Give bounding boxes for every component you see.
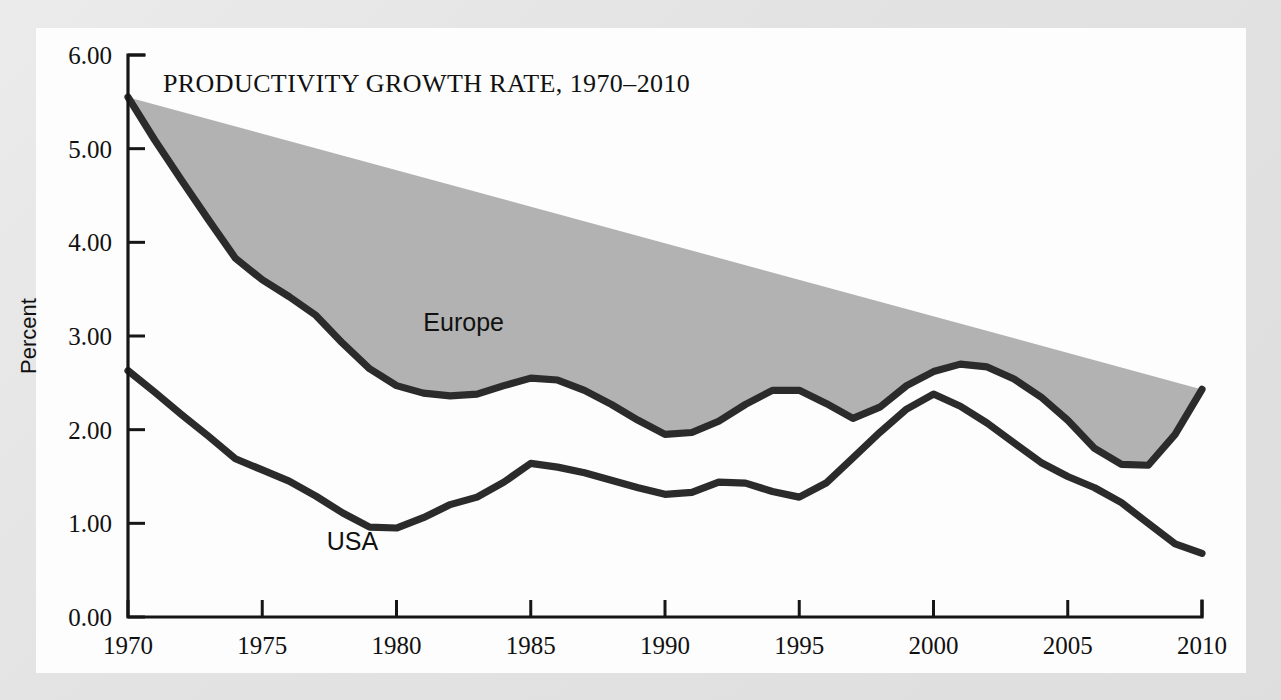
x-axis-tick-label: 2000 — [909, 632, 959, 659]
x-axis-tick-label: 1990 — [640, 632, 690, 659]
y-axis-title: Percent — [16, 298, 41, 374]
y-axis-ticks — [128, 55, 145, 617]
y-axis-tick-label: 0.00 — [68, 604, 112, 631]
y-axis-tick-label: 5.00 — [68, 136, 112, 163]
figure-page: 0.001.002.003.004.005.006.00 19701975198… — [0, 0, 1281, 700]
between-series-shaded-band — [128, 97, 1202, 465]
europe-series-label: Europe — [423, 308, 504, 336]
x-axis-tick-label: 1980 — [372, 632, 422, 659]
y-axis-tick-label: 2.00 — [68, 417, 112, 444]
x-axis-tick-labels: 197019751980198519901995200020052010 — [103, 632, 1227, 659]
chart-title: PRODUCTIVITY GROWTH RATE, 1970–2010 — [163, 69, 690, 98]
x-axis-tick-label: 1985 — [506, 632, 556, 659]
y-axis-tick-label: 4.00 — [68, 229, 112, 256]
x-axis-ticks — [128, 600, 1202, 617]
x-axis-tick-label: 1975 — [237, 632, 287, 659]
x-axis-tick-label: 1995 — [774, 632, 824, 659]
y-axis-tick-label: 1.00 — [68, 510, 112, 537]
usa-series-label: USA — [327, 527, 379, 555]
y-axis-tick-label: 3.00 — [68, 323, 112, 350]
y-axis-tick-label: 6.00 — [68, 42, 112, 69]
productivity-growth-chart: 0.001.002.003.004.005.006.00 19701975198… — [0, 0, 1281, 700]
x-axis-tick-label: 2010 — [1177, 632, 1227, 659]
x-axis-tick-label: 1970 — [103, 632, 153, 659]
chart-figure: 0.001.002.003.004.005.006.00 19701975198… — [0, 0, 1281, 700]
y-axis-tick-labels: 0.001.002.003.004.005.006.00 — [68, 42, 112, 631]
x-axis-tick-label: 2005 — [1043, 632, 1093, 659]
